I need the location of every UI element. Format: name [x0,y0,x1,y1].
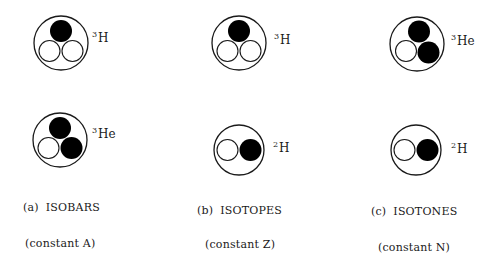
nucleus-diagram-2-nucleon [212,123,266,177]
nucleus-isotones-h2 [389,123,443,177]
proton-icon [61,137,83,159]
panel-tag: (b) [197,204,213,217]
neutron-icon [62,41,83,62]
mass-number: 3 [274,32,279,41]
panel-caption-isotopes: (b)ISOTOPES [197,205,282,216]
proton-icon [240,139,262,161]
nucleus-diagram-3-nucleon [388,15,446,73]
mass-number: 3 [451,33,456,42]
nucleus-isotopes-h3 [210,14,268,72]
neutron-icon [394,140,415,161]
mass-number: 2 [273,140,278,149]
panel-title: ISOTOPES [220,204,282,217]
mass-number: 3 [92,126,97,135]
isotope-label-h2: 2H [273,141,290,154]
nucleus-isobars-he3 [31,111,89,169]
nucleus-diagram-3-nucleon [210,14,268,72]
isotope-label-h3: 3H [92,31,109,44]
panel-caption-isobars: (a)ISOBARS [23,202,100,213]
panel-subtitle-isotones: (constant N) [378,242,450,253]
isotope-label-h2: 2H [451,142,468,155]
panel-subtitle-isotopes: (constant Z) [205,239,275,250]
proton-icon [418,42,440,64]
element-symbol: H [457,142,467,156]
panel-title: ISOBARS [46,201,100,214]
panel-tag: (c) [371,205,386,218]
neutron-icon [240,41,261,62]
proton-icon [50,20,72,42]
nucleus-diagram-3-nucleon [32,14,90,72]
mass-number: 2 [451,141,456,150]
proton-icon [417,139,439,161]
isotope-label-he3: 3He [92,127,116,140]
neutron-icon [396,41,417,62]
neutron-icon [38,138,59,159]
element-symbol: H [280,33,290,47]
panel-subtitle-isobars: (constant A) [25,238,95,249]
nucleus-diagram-3-nucleon [31,111,89,169]
isotope-label-h3: 3H [274,33,291,46]
panel-tag: (a) [23,201,39,214]
proton-icon [228,20,250,42]
neutron-icon [39,41,60,62]
element-symbol: He [457,34,475,48]
proton-icon [49,117,71,139]
mass-number: 3 [92,30,97,39]
nucleus-isotopes-h2 [212,123,266,177]
neutron-icon [217,41,238,62]
element-symbol: H [98,31,108,45]
nucleus-diagram-2-nucleon [389,123,443,177]
proton-icon [408,21,430,43]
element-symbol: He [98,127,116,141]
element-symbol: H [279,141,289,155]
neutron-icon [217,140,238,161]
nucleus-isobars-h3 [32,14,90,72]
panel-title: ISOTONES [393,205,457,218]
isotope-label-he3: 3He [451,34,475,47]
nucleus-isotones-he3 [388,15,446,73]
panel-caption-isotones: (c)ISOTONES [371,206,457,217]
